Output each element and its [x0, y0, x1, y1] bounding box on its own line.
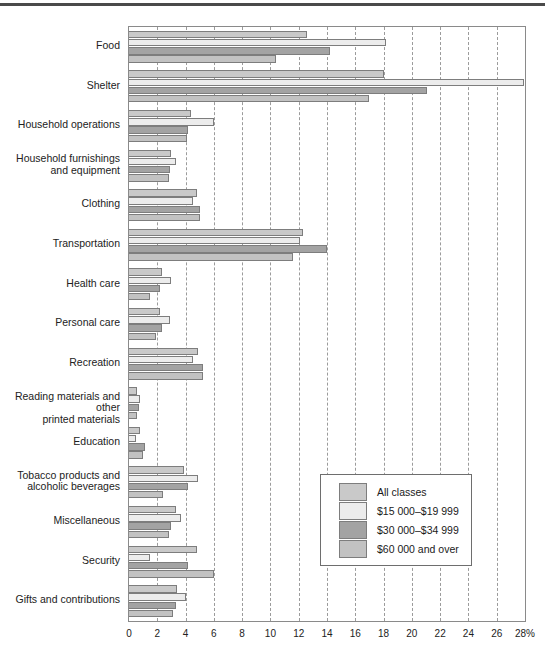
category-label: Education [73, 436, 120, 448]
bar [129, 372, 203, 380]
bar [129, 189, 197, 197]
category-label: Shelter [87, 80, 120, 92]
bar [129, 395, 140, 403]
bar [129, 466, 184, 474]
value-axis: 0246810121416182022242628% [0, 622, 545, 662]
bar [129, 506, 176, 514]
bar [129, 47, 330, 55]
category-label: Recreation [69, 357, 120, 369]
bar [129, 554, 150, 562]
x-tick-label: 12 [293, 628, 304, 639]
bar [129, 404, 139, 412]
x-tick-label: 26 [491, 628, 502, 639]
bar [129, 546, 197, 554]
category-label: Security [82, 555, 120, 567]
category-label: Transportation [53, 238, 120, 250]
bar [129, 412, 137, 420]
bar [129, 87, 427, 95]
bar [129, 268, 162, 276]
category-label: Reading materials and other printed mate… [0, 391, 120, 426]
bar [129, 55, 276, 63]
bar [129, 237, 300, 245]
x-tick-label: 6 [211, 628, 217, 639]
bar [129, 427, 140, 435]
bar [129, 39, 386, 47]
category-label: Miscellaneous [53, 515, 120, 527]
legend-swatch [339, 540, 367, 558]
x-tick-label: 28% [515, 628, 535, 639]
bar [129, 253, 293, 261]
bar [129, 118, 214, 126]
x-tick-label: 24 [463, 628, 474, 639]
bar [129, 364, 203, 372]
bar [129, 443, 145, 451]
bar [129, 206, 200, 214]
bar [129, 197, 193, 205]
bar [129, 491, 163, 499]
x-tick-label: 18 [378, 628, 389, 639]
legend-label: $15 000–$19 999 [377, 505, 459, 517]
bar [129, 110, 191, 118]
bar [129, 293, 150, 301]
legend-swatch [339, 521, 367, 539]
legend-item: $30 000–$34 999 [339, 521, 459, 539]
category-label: Tobacco products and alcoholic beverages [17, 470, 120, 493]
category-axis-labels: FoodShelterHousehold operationsHousehold… [0, 26, 124, 622]
legend-swatch [339, 502, 367, 520]
bar [129, 70, 384, 78]
chart-page: FoodShelterHousehold operationsHousehold… [0, 0, 545, 662]
bar [129, 135, 187, 143]
legend-label: All classes [377, 486, 427, 498]
x-tick-label: 10 [265, 628, 276, 639]
bar [129, 570, 214, 578]
bar [129, 435, 136, 443]
bar [129, 593, 186, 601]
category-label: Household operations [18, 119, 120, 131]
legend-swatch [339, 483, 367, 501]
bar [129, 214, 200, 222]
category-label: Personal care [55, 317, 120, 329]
bar [129, 308, 160, 316]
bar [129, 245, 327, 253]
bar [129, 166, 170, 174]
legend-label: $30 000–$34 999 [377, 524, 459, 536]
x-tick-label: 0 [126, 628, 132, 639]
bar [129, 126, 188, 134]
bar [129, 324, 162, 332]
x-tick-label: 14 [321, 628, 332, 639]
bar [129, 585, 177, 593]
bar [129, 483, 188, 491]
bar [129, 348, 198, 356]
bar [129, 229, 303, 237]
category-label: Gifts and contributions [16, 594, 120, 606]
x-tick-label: 2 [155, 628, 161, 639]
bar [129, 285, 160, 293]
bar [129, 451, 143, 459]
bar [129, 356, 193, 364]
bar [129, 95, 369, 103]
bar [129, 387, 137, 395]
bar [129, 31, 307, 39]
category-label: Food [96, 40, 120, 52]
header-rule [0, 3, 545, 6]
bar [129, 602, 176, 610]
bar [129, 531, 169, 539]
bar [129, 562, 188, 570]
bar [129, 174, 169, 182]
category-label: Health care [66, 278, 120, 290]
bar [129, 150, 171, 158]
bar [129, 79, 524, 87]
category-label: Clothing [81, 198, 120, 210]
bar [129, 475, 198, 483]
legend-item: $60 000 and over [339, 540, 459, 558]
legend-item: All classes [339, 483, 427, 501]
legend-label: $60 000 and over [377, 543, 459, 555]
bar [129, 277, 171, 285]
x-tick-label: 16 [350, 628, 361, 639]
x-tick-label: 22 [435, 628, 446, 639]
category-label: Household furnishings and equipment [16, 153, 120, 176]
legend: All classes$15 000–$19 999$30 000–$34 99… [320, 474, 472, 566]
bar [129, 333, 156, 341]
legend-item: $15 000–$19 999 [339, 502, 459, 520]
x-tick-label: 8 [239, 628, 245, 639]
